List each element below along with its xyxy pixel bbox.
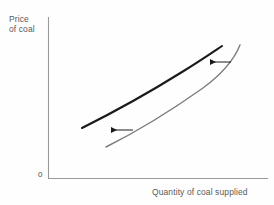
x-axis-label: Quantity of coal supplied	[152, 187, 248, 197]
plot-area	[0, 0, 274, 205]
supply-curve-figure: Price of coal 0 Quantity of coal supplie…	[0, 0, 274, 205]
supply-curve-original	[106, 45, 240, 147]
supply-curve-new	[82, 46, 222, 128]
